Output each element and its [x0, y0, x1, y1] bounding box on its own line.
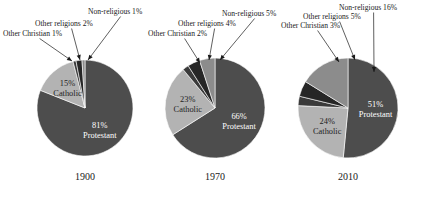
callout-label-c3-or: Other religions 5%: [303, 12, 361, 21]
leader-line-c3-oc: [318, 31, 339, 63]
pie-chart-svg: Other Christian 1%Other religions 2%Non-…: [0, 0, 428, 201]
callout-label-c2-or: Other religions 4%: [178, 19, 236, 28]
callout-label-c3-oc: Other Christian 3%: [281, 21, 341, 30]
callout-label-c2-oc: Other Christian 2%: [148, 29, 208, 38]
leader-arrowhead-c1-nr: [88, 55, 93, 60]
year-label-2010: 2010: [338, 171, 358, 182]
leader-line-c1-nr: [88, 17, 121, 61]
callout-label-c1-or: Other religions 2%: [35, 19, 93, 28]
year-label-1900: 1900: [75, 171, 95, 182]
leader-arrowhead-c1-or: [77, 55, 81, 60]
year-labels-group: 190019702010: [75, 171, 358, 182]
leader-line-c1-oc: [40, 39, 72, 62]
leader-line-c3-or: [340, 22, 355, 61]
pie-chart-figure: Other Christian 1%Other religions 2%Non-…: [0, 0, 428, 201]
callout-label-c3-nr: Non-religious 16%: [339, 3, 398, 12]
callout-label-c1-nr: Non-religious 1%: [88, 7, 143, 16]
pie-group: [37, 58, 398, 158]
year-label-1970: 1970: [205, 171, 225, 182]
callout-label-c1-oc: Other Christian 1%: [3, 29, 63, 38]
callout-label-c2-nr: Non-religious 5%: [222, 9, 277, 18]
leader-arrowhead-c1-oc: [67, 56, 72, 61]
callout-labels-group: Other Christian 1%Other religions 2%Non-…: [3, 3, 398, 38]
